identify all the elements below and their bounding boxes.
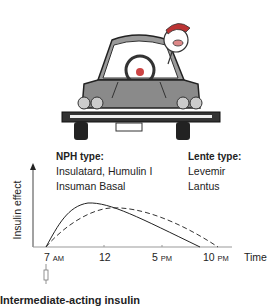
- tick-5pm: 5 PM: [152, 251, 172, 263]
- tick-10pm: 10 PM: [203, 251, 229, 263]
- tick-12: 12: [99, 251, 111, 263]
- x-axis-label: Time: [244, 251, 267, 263]
- tick-7am: 7 AM: [44, 251, 64, 263]
- insulin-chart: [0, 150, 279, 300]
- y-axis-label: Insulin effect: [11, 181, 23, 240]
- footer-caption-partial: Intermediate-acting insulin: [0, 294, 140, 306]
- car-illustration: [0, 0, 279, 150]
